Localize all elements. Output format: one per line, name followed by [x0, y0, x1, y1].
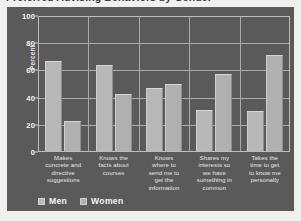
chart-title-text: Preferred Advising Behaviors by Gender	[6, 0, 212, 3]
x-axis-category-label: Shares myinterests sowe havesomething in…	[189, 154, 239, 191]
chart-title-clipped: Preferred Advising Behaviors by Gender	[0, 0, 301, 7]
x-axis-category-line: Makes	[38, 154, 88, 161]
x-axis-category-line: directive	[38, 169, 88, 176]
gridline-vertical	[240, 16, 241, 152]
bar-men-2	[146, 88, 163, 152]
bar-men-4	[247, 111, 264, 152]
y-axis-tick-label: 40	[26, 93, 35, 102]
gridline-horizontal	[38, 43, 290, 44]
y-axis-tick-mark	[35, 70, 38, 71]
gridline-vertical	[88, 16, 89, 152]
x-axis-category-label: Makesconcrete anddirectivesuggestions	[38, 154, 88, 184]
x-axis-category-line: suggestions	[38, 176, 88, 183]
x-axis-category-line: something in	[189, 176, 239, 183]
y-axis-tick-label: 20	[26, 120, 35, 129]
x-axis-category-label: Takes thetime to getto know mepersonally	[240, 154, 290, 184]
y-axis-tick-mark	[35, 124, 38, 125]
chart-figure: Preferred Advising Behaviors by Gender P…	[0, 0, 301, 221]
bar-men-3	[196, 110, 213, 152]
bar-men-0	[45, 61, 62, 152]
legend-item-women[interactable]: Women	[80, 196, 123, 206]
chart-legend: MenWomen	[38, 196, 123, 206]
y-axis-tick-label: 80	[26, 39, 35, 48]
x-axis-category-line: Shares my	[189, 154, 239, 161]
plot-area: 020406080100	[38, 16, 290, 152]
x-axis-category-label: Knowswhere tosend me toget theinformatio…	[139, 154, 189, 191]
chart-panel: Percent 020406080100 Makesconcrete anddi…	[7, 7, 294, 211]
x-axis-category-line: courses	[88, 169, 138, 176]
y-axis-tick-mark	[35, 43, 38, 44]
gridline-vertical	[139, 16, 140, 152]
x-axis-category-line: Knows the	[88, 154, 138, 161]
y-axis-tick-label: 60	[26, 66, 35, 75]
x-axis-category-line: to know me	[240, 169, 290, 176]
x-axis-category-line: where to	[139, 161, 189, 168]
bar-women-4	[266, 55, 283, 152]
bar-women-2	[165, 84, 182, 152]
x-axis-category-line: common	[189, 184, 239, 191]
x-axis-category-line: we have	[189, 169, 239, 176]
x-axis-category-line: information	[139, 184, 189, 191]
y-axis-tick-mark	[35, 97, 38, 98]
x-axis-category-line: personally	[240, 176, 290, 183]
legend-swatch-icon	[80, 198, 87, 205]
legend-swatch-icon	[38, 198, 45, 205]
legend-label: Women	[91, 196, 123, 206]
x-axis-category-line: concrete and	[38, 161, 88, 168]
gridline-vertical	[189, 16, 190, 152]
bar-women-0	[64, 121, 81, 152]
y-axis-tick-mark	[35, 16, 38, 17]
x-axis-category-line: Knows	[139, 154, 189, 161]
x-axis-category-line: Takes the	[240, 154, 290, 161]
x-axis-category-line: get the	[139, 176, 189, 183]
legend-label: Men	[49, 196, 67, 206]
gridline-horizontal	[38, 98, 290, 99]
x-axis-category-line: send me to	[139, 169, 189, 176]
legend-item-men[interactable]: Men	[38, 196, 67, 206]
x-axis-category-label: Knows thefacts aboutcourses	[88, 154, 138, 176]
gridline-horizontal	[38, 70, 290, 71]
y-axis-tick-label: 100	[22, 12, 35, 21]
bar-women-3	[215, 74, 232, 152]
x-axis-category-line: time to get	[240, 161, 290, 168]
x-axis-category-line: facts about	[88, 161, 138, 168]
x-axis-category-line: interests so	[189, 161, 239, 168]
bar-women-1	[115, 94, 132, 152]
bar-men-1	[96, 65, 113, 152]
y-axis-tick-mark	[35, 152, 38, 153]
x-axis-labels: Makesconcrete anddirectivesuggestionsKno…	[38, 154, 290, 196]
